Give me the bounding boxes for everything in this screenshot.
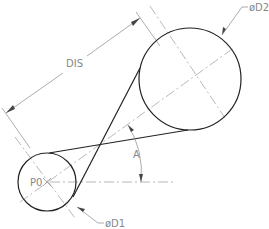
angle-a-dimension: A — [128, 125, 143, 182]
d2-leader: øD2 — [222, 2, 269, 35]
d1-leader: øD1 — [77, 207, 125, 229]
crossed-belt-drawing: DIS A øD2 øD1 P0 — [0, 0, 269, 229]
crossed-belt — [49, 68, 188, 197]
p0-label: P0 — [30, 177, 42, 188]
d2-label: øD2 — [249, 2, 269, 13]
dis-dimension: DIS — [6, 18, 140, 113]
d1-label: øD1 — [105, 218, 125, 229]
dis-extension-line-1 — [2, 108, 30, 148]
angle-label: A — [133, 149, 140, 160]
dis-label: DIS — [66, 58, 83, 69]
large-pulley-circle — [139, 28, 241, 130]
origin-point: P0 — [30, 177, 51, 188]
small-pulley-centerlines — [15, 47, 235, 218]
